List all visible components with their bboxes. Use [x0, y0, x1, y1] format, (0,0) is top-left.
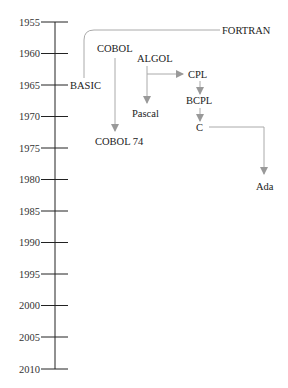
- year-label: 1985: [19, 206, 40, 217]
- edge-c-ada: [209, 127, 264, 174]
- year-label: 1975: [19, 143, 40, 154]
- node-basic: BASIC: [70, 80, 101, 91]
- node-algol: ALGOL: [137, 53, 173, 64]
- node-cobol: COBOL: [97, 43, 133, 54]
- year-label: 2005: [19, 332, 40, 343]
- year-label: 2010: [19, 364, 40, 375]
- year-axis: 1955 1960 1965 1970 1975 1980 1985 1990 …: [19, 17, 68, 375]
- node-cobol74: COBOL 74: [95, 136, 144, 147]
- year-label: 1955: [19, 17, 40, 28]
- timeline-diagram: 1955 1960 1965 1970 1975 1980 1985 1990 …: [0, 0, 288, 388]
- node-pascal: Pascal: [132, 108, 159, 119]
- year-label: 1965: [19, 80, 40, 91]
- node-c: C: [196, 122, 203, 133]
- node-bcpl: BCPL: [186, 95, 212, 106]
- node-cpl: CPL: [188, 69, 207, 80]
- year-label: 2000: [19, 300, 40, 311]
- year-label: 1970: [19, 111, 40, 122]
- year-label: 1960: [19, 48, 40, 59]
- node-fortran: FORTRAN: [222, 25, 271, 36]
- year-label: 1995: [19, 269, 40, 280]
- year-label: 1990: [19, 237, 40, 248]
- language-nodes: FORTRAN COBOL ALGOL BASIC CPL Pascal BCP…: [70, 25, 274, 192]
- year-label: 1980: [19, 174, 40, 185]
- node-ada: Ada: [256, 181, 274, 192]
